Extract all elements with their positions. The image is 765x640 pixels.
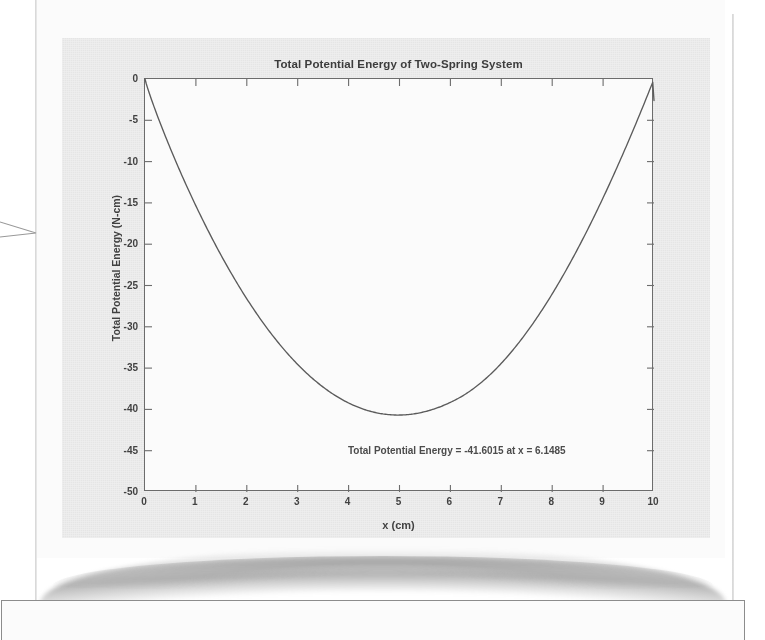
- y-tick-10: -50: [108, 486, 138, 497]
- x-tick-8: 8: [536, 496, 566, 507]
- page-gutter-shadow-core: [52, 556, 714, 590]
- x-tick-9: 9: [587, 496, 617, 507]
- energy-curve-line: [145, 79, 654, 415]
- x-tick-2: 2: [231, 496, 261, 507]
- minimum-annotation-text: Total Potential Energy = -41.6015 at x =…: [348, 445, 566, 456]
- y-tick-2: -10: [108, 155, 138, 166]
- chart-title: Total Potential Energy of Two-Spring Sys…: [144, 58, 653, 70]
- x-tick-1: 1: [180, 496, 210, 507]
- right-margin-rule: [732, 14, 734, 600]
- x-axis-label: x (cm): [144, 519, 653, 531]
- leader-arrow-icon: [0, 212, 40, 248]
- y-axis-ticks: [145, 120, 654, 450]
- y-tick-3: -15: [108, 196, 138, 207]
- y-tick-labels: 0 -5 -10 -15 -20 -25 -30 -35 -40 -45 -50: [104, 78, 138, 491]
- matlab-figure: Total Potential Energy of Two-Spring Sys…: [62, 38, 710, 538]
- next-figure-frame: [1, 600, 745, 640]
- x-tick-5: 5: [384, 496, 414, 507]
- x-tick-4: 4: [333, 496, 363, 507]
- x-axis-ticks: [196, 79, 603, 492]
- x-tick-7: 7: [485, 496, 515, 507]
- plot-axes: [144, 78, 653, 491]
- y-tick-9: -45: [108, 444, 138, 455]
- plot-canvas: [145, 79, 654, 492]
- y-tick-7: -35: [108, 362, 138, 373]
- y-tick-1: -5: [108, 114, 138, 125]
- x-tick-10: 10: [638, 496, 668, 507]
- x-tick-0: 0: [129, 496, 159, 507]
- y-tick-0: 0: [108, 73, 138, 84]
- x-tick-labels: 0 1 2 3 4 5 6 7 8 9 10: [144, 496, 653, 512]
- x-tick-3: 3: [282, 496, 312, 507]
- y-tick-8: -40: [108, 403, 138, 414]
- y-tick-4: -20: [108, 238, 138, 249]
- x-tick-6: 6: [434, 496, 464, 507]
- y-tick-6: -30: [108, 320, 138, 331]
- y-tick-5: -25: [108, 279, 138, 290]
